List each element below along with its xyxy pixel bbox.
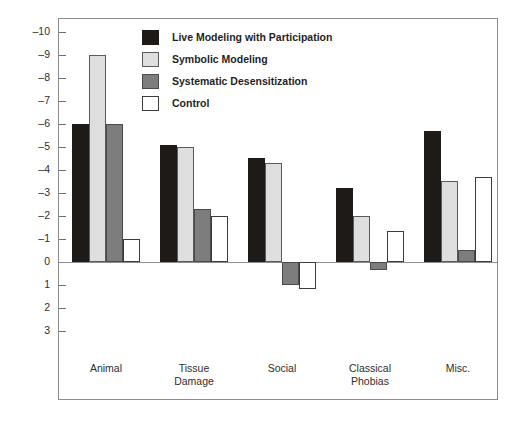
bar <box>265 163 282 262</box>
bar <box>424 131 441 262</box>
legend-item: Live Modeling with Participation <box>142 26 332 48</box>
y-tick-mark <box>59 331 66 332</box>
legend-swatch-dark <box>142 74 159 89</box>
legend-label: Systematic Desensitization <box>172 75 307 87</box>
y-tick-mark <box>59 239 66 240</box>
y-tick-label: –7 <box>10 94 50 106</box>
y-tick-mark <box>59 308 66 309</box>
bar <box>160 145 177 262</box>
bar <box>248 158 265 262</box>
x-axis-category-line: Misc. <box>413 362 503 375</box>
y-tick-label: 2 <box>10 301 50 313</box>
bar <box>370 262 387 270</box>
bar <box>299 262 316 290</box>
bar <box>89 55 106 262</box>
x-axis-category-label: TissueDamage <box>149 362 239 388</box>
bar <box>106 124 123 262</box>
x-axis-category-line: Social <box>237 362 327 375</box>
legend-item: Symbolic Modeling <box>142 48 332 70</box>
legend-label: Live Modeling with Participation <box>172 31 332 43</box>
y-tick-mark <box>59 78 66 79</box>
x-axis-category-line: Tissue <box>149 362 239 375</box>
bar <box>353 216 370 262</box>
x-axis-category-line: Animal <box>61 362 151 375</box>
bar <box>441 181 458 262</box>
y-tick-mark <box>59 124 66 125</box>
legend-item: Control <box>142 92 332 114</box>
y-tick-mark <box>59 285 66 286</box>
bar <box>282 262 299 285</box>
zero-baseline <box>58 262 498 263</box>
y-tick-mark <box>59 101 66 102</box>
bar <box>72 124 89 262</box>
y-tick-mark <box>59 216 66 217</box>
bar <box>387 231 404 262</box>
y-tick-mark <box>59 170 66 171</box>
legend-swatch-black <box>142 30 159 45</box>
legend-label: Control <box>172 97 209 109</box>
y-tick-mark <box>59 32 66 33</box>
y-tick-label: 0 <box>10 255 50 267</box>
x-axis-category-label: Social <box>237 362 327 375</box>
bar <box>211 216 228 262</box>
y-tick-label: –5 <box>10 140 50 152</box>
legend-swatch-light <box>142 52 159 67</box>
x-axis-category-label: ClassicalPhobias <box>325 362 415 388</box>
y-tick-label: –4 <box>10 163 50 175</box>
x-axis-category-line: Phobias <box>325 375 415 388</box>
x-axis-category-line: Damage <box>149 375 239 388</box>
y-tick-label: –1 <box>10 232 50 244</box>
bar <box>123 239 140 262</box>
y-tick-label: –6 <box>10 117 50 129</box>
bar <box>194 209 211 262</box>
y-tick-mark <box>59 193 66 194</box>
y-tick-label: –8 <box>10 71 50 83</box>
legend-label: Symbolic Modeling <box>172 53 268 65</box>
bar <box>336 188 353 262</box>
bar <box>458 250 475 262</box>
bar <box>177 147 194 262</box>
y-tick-label: –10 <box>10 25 50 37</box>
y-tick-mark <box>59 147 66 148</box>
y-tick-label: –2 <box>10 209 50 221</box>
bar <box>475 177 492 262</box>
x-axis-category-line: Classical <box>325 362 415 375</box>
y-tick-label: 3 <box>10 324 50 336</box>
y-tick-label: –9 <box>10 48 50 60</box>
y-tick-label: 1 <box>10 278 50 290</box>
legend-swatch-white <box>142 96 159 111</box>
legend: Live Modeling with ParticipationSymbolic… <box>142 26 332 114</box>
y-tick-mark <box>59 55 66 56</box>
x-axis-category-label: Animal <box>61 362 151 375</box>
bar-chart: Change in Intensity of Fears –10–9–8–7–6… <box>0 0 520 438</box>
legend-item: Systematic Desensitization <box>142 70 332 92</box>
x-axis-category-label: Misc. <box>413 362 503 375</box>
y-tick-label: –3 <box>10 186 50 198</box>
